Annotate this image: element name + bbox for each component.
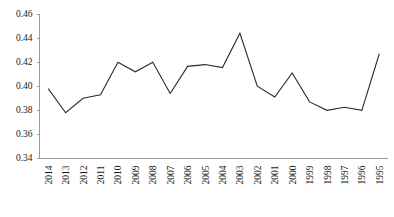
x-tick-label: 1997 [340,165,350,184]
y-tick-label: 0.38 [16,105,33,115]
x-tick-label: 1998 [323,165,333,184]
x-tick-label: 2001 [270,165,280,184]
x-tick-label: 2010 [113,165,123,184]
y-tick-label: 0.34 [16,153,33,163]
x-tick-label: 2002 [253,165,263,184]
x-tick-label: 2006 [183,165,193,184]
x-tick-label: 1999 [305,165,315,184]
x-tick-label: 2011 [96,165,106,184]
x-tick-label: 2007 [166,165,176,184]
x-tick-label: 2000 [288,165,298,184]
x-tick-label: 2012 [79,165,89,184]
y-tick-label: 0.46 [16,9,33,19]
y-tick-label: 0.36 [16,129,33,139]
y-tick-label: 0.42 [16,57,33,67]
line-chart: 0.340.360.380.400.420.440.46 20142013201… [0,0,394,217]
x-tick-label: 2008 [148,165,158,184]
x-tick-label: 2014 [44,165,54,184]
x-tick-label: 2013 [61,165,71,184]
y-tick-label: 0.40 [16,81,33,91]
y-tick-label: 0.44 [16,33,33,43]
y-axis-tick-labels: 0.340.360.380.400.420.440.46 [16,9,33,164]
x-tick-label: 2003 [235,165,245,184]
chart-canvas: 0.340.360.380.400.420.440.46 20142013201… [0,0,394,217]
x-tick-label: 2005 [201,165,211,184]
x-tick-label: 1996 [357,165,367,184]
data-series-line [48,33,379,112]
x-tick-label: 1995 [375,165,385,184]
x-tick-label: 2009 [131,165,141,184]
x-tick-label: 2004 [218,165,228,184]
x-axis-tick-labels: 2014201320122011201020092008200720062005… [44,165,385,184]
